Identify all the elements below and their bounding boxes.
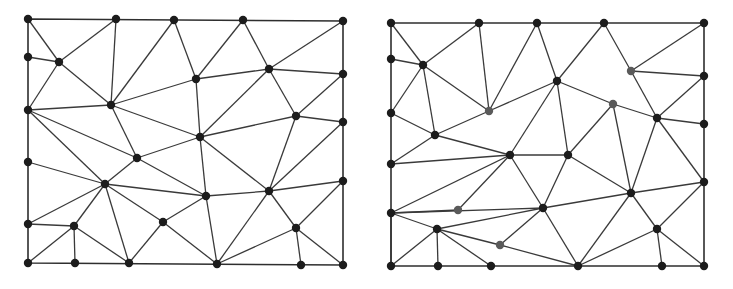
- mesh-edge: [28, 57, 59, 62]
- mesh-node: [24, 259, 32, 267]
- mesh-node: [475, 19, 483, 27]
- mesh-node: [600, 19, 608, 27]
- mesh-edge: [437, 229, 491, 266]
- mesh-node: [133, 154, 141, 162]
- mesh-edge: [74, 184, 105, 226]
- mesh-edge: [435, 111, 489, 135]
- mesh-edge: [28, 110, 137, 158]
- mesh-node: [653, 114, 661, 122]
- mesh-edge: [200, 69, 269, 137]
- mesh-node: [24, 15, 32, 23]
- mesh-edge: [657, 76, 704, 118]
- mesh-node: [107, 101, 115, 109]
- mesh-node: [339, 17, 347, 25]
- mesh-node: [487, 262, 495, 270]
- mesh-edge: [631, 182, 704, 193]
- mesh-node-highlighted: [485, 107, 493, 115]
- mesh-node: [387, 160, 395, 168]
- mesh-edge: [200, 137, 269, 191]
- mesh-edge: [28, 105, 111, 110]
- mesh-edge: [557, 23, 604, 81]
- mesh-node: [387, 109, 395, 117]
- mesh-edge: [59, 19, 116, 62]
- mesh-edge: [568, 155, 631, 193]
- mesh-edge: [269, 69, 343, 74]
- mesh-edge: [458, 155, 510, 210]
- mesh-edge: [543, 208, 578, 266]
- mesh-edge: [479, 23, 489, 111]
- right-mesh: [387, 19, 708, 270]
- mesh-node-highlighted: [627, 67, 635, 75]
- mesh-edge: [578, 229, 657, 266]
- mesh-edge: [657, 118, 704, 182]
- mesh-edge: [296, 116, 343, 122]
- mesh-node: [700, 262, 708, 270]
- mesh-edge: [296, 228, 343, 265]
- mesh-node: [339, 118, 347, 126]
- mesh-edge: [206, 191, 269, 196]
- mesh-node: [70, 222, 78, 230]
- mesh-edge: [28, 19, 59, 62]
- mesh-node: [658, 262, 666, 270]
- mesh-edge: [137, 158, 206, 196]
- mesh-edge: [137, 137, 200, 158]
- mesh-edge: [631, 118, 657, 193]
- mesh-edge: [111, 20, 174, 105]
- mesh-edge: [423, 65, 435, 135]
- mesh-edge: [269, 122, 343, 191]
- mesh-node: [387, 262, 395, 270]
- mesh-edge: [631, 71, 704, 76]
- mesh-node: [419, 61, 427, 69]
- mesh-node: [170, 16, 178, 24]
- mesh-edge: [423, 23, 479, 65]
- mesh-edge: [163, 196, 206, 222]
- figure: [0, 0, 733, 289]
- mesh-edge: [437, 229, 500, 245]
- mesh-edge: [657, 229, 662, 266]
- mesh-edge: [604, 23, 631, 71]
- mesh-node: [265, 187, 273, 195]
- mesh-edge: [391, 113, 435, 135]
- mesh-node: [387, 19, 395, 27]
- mesh-edge: [437, 229, 438, 266]
- mesh-node: [433, 225, 441, 233]
- mesh-edge: [28, 184, 105, 224]
- mesh-edge: [423, 65, 489, 111]
- mesh-edge: [111, 79, 196, 105]
- mesh-edge: [28, 62, 59, 110]
- mesh-edge: [435, 135, 510, 155]
- mesh-node: [24, 158, 32, 166]
- mesh-edge: [217, 191, 269, 264]
- mesh-edge: [296, 74, 343, 116]
- mesh-edge: [391, 59, 423, 65]
- mesh-edge: [28, 224, 74, 226]
- mesh-edge: [500, 208, 543, 245]
- mesh-edge: [111, 19, 116, 105]
- mesh-edge: [196, 79, 200, 137]
- mesh-node: [506, 151, 514, 159]
- mesh-node: [213, 260, 221, 268]
- mesh-node: [434, 262, 442, 270]
- mesh-edge: [74, 226, 75, 263]
- mesh-edge: [206, 196, 217, 264]
- mesh-edge: [296, 181, 343, 228]
- mesh-edge: [163, 222, 217, 264]
- mesh-node-highlighted: [496, 241, 504, 249]
- left-mesh: [24, 15, 347, 269]
- mesh-edge: [510, 81, 557, 155]
- mesh-edge: [391, 155, 510, 213]
- mesh-edge: [269, 191, 296, 228]
- mesh-edge: [537, 23, 557, 81]
- mesh-edge: [217, 228, 296, 264]
- mesh-edge: [269, 69, 296, 116]
- mesh-node: [339, 70, 347, 78]
- mesh-edge: [657, 182, 704, 229]
- mesh-edge: [500, 245, 578, 266]
- mesh-node: [700, 72, 708, 80]
- mesh-edge: [391, 213, 437, 229]
- mesh-edge: [557, 81, 613, 104]
- triangular-meshes: [0, 0, 733, 289]
- mesh-node: [653, 225, 661, 233]
- mesh-edge: [568, 104, 613, 155]
- mesh-edge: [243, 20, 269, 69]
